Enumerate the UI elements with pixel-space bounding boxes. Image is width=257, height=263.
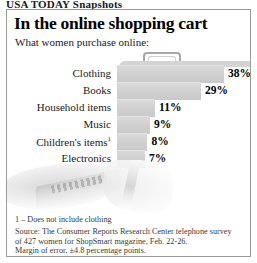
bar-category-label: Children's items1 xyxy=(7,136,117,148)
footnote: 1 – Does not include clothing xyxy=(15,215,112,224)
bar-category-label: Books xyxy=(7,85,117,96)
bar-value-label: 29% xyxy=(205,83,228,98)
decorative-shopping-photo xyxy=(7,160,251,218)
source-note: Source: The Consumer Reports Research Ce… xyxy=(15,227,247,256)
bar-track: 29% xyxy=(117,82,251,99)
chart-subtitle: What women purchase online: xyxy=(15,36,149,48)
table-row: Music9% xyxy=(7,116,251,133)
bar-value-label: 9% xyxy=(154,117,171,132)
bar-track: 38% xyxy=(117,65,251,82)
snapshot-panel: In the online shopping cart What women p… xyxy=(6,9,251,257)
bar-category-label: Clothing xyxy=(7,68,117,79)
bar-value-label: 11% xyxy=(159,100,181,115)
bar xyxy=(117,82,201,100)
bar xyxy=(117,133,147,151)
photo-fade-right xyxy=(7,160,251,218)
table-row: Clothing38% xyxy=(7,65,251,82)
bar xyxy=(117,65,224,83)
table-row: Books29% xyxy=(7,82,251,99)
bar-value-label: 38% xyxy=(228,66,251,81)
bar-value-label: 8% xyxy=(151,134,168,149)
bar-rows: Clothing38%Books29%Household items11%Mus… xyxy=(7,65,251,167)
bar xyxy=(117,99,155,117)
bar-track: 11% xyxy=(117,99,251,116)
bar-chart: Clothing38%Books29%Household items11%Mus… xyxy=(7,52,251,167)
footnote-marker: 1 xyxy=(108,135,112,143)
bar-track: 9% xyxy=(117,116,251,133)
source-line-3: Margin of error, ±4.8 percentage points. xyxy=(15,246,247,256)
bar-category-label: Household items xyxy=(7,102,117,113)
table-row: Household items11% xyxy=(7,99,251,116)
bar xyxy=(117,116,150,134)
page-title: In the online shopping cart xyxy=(14,13,207,34)
source-line-1: Source: The Consumer Reports Research Ce… xyxy=(15,227,247,237)
bar-track: 8% xyxy=(117,133,251,150)
table-row: Children's items18% xyxy=(7,133,251,150)
source-line-2: of 427 women for ShopSmart magazine, Feb… xyxy=(15,237,247,247)
bar-category-label: Music xyxy=(7,119,117,130)
